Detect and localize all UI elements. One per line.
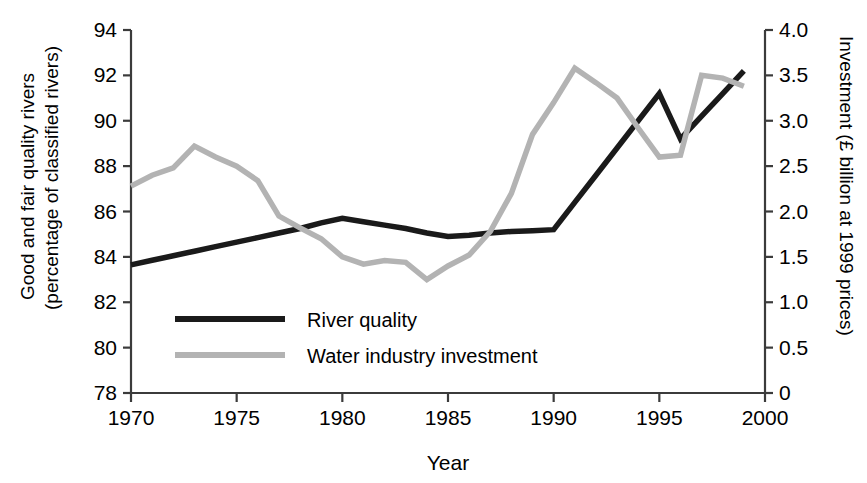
- y-right-tick-label: 2.0: [779, 200, 808, 223]
- series-line-river-quality: [131, 71, 744, 265]
- y-right-tick-label: 1.0: [779, 290, 808, 313]
- y-left-tick-label: 78: [94, 381, 117, 404]
- y-right-tick-label: 3.0: [779, 109, 808, 132]
- y-right-tick-label: 0.5: [779, 336, 808, 359]
- y-left-tick-label: 94: [94, 18, 118, 41]
- y-axis-left-title-line1: Good and fair quality rivers: [17, 73, 38, 300]
- chart-legend: River qualityWater industry investment: [175, 309, 538, 367]
- x-axis-ticks: 1970197519801985199019952000: [108, 393, 789, 429]
- x-tick-label: 1985: [425, 406, 472, 429]
- y-left-tick-label: 84: [94, 245, 118, 268]
- y-right-tick-label: 0: [779, 381, 791, 404]
- x-tick-label: 1980: [319, 406, 366, 429]
- y-left-tick-label: 92: [94, 63, 117, 86]
- x-tick-label: 1970: [108, 406, 155, 429]
- y-right-tick-label: 1.5: [779, 245, 808, 268]
- y-left-tick-label: 88: [94, 154, 117, 177]
- series-lines: [131, 68, 744, 279]
- chart-container: 788082848688909294 00.51.01.52.02.53.03.…: [0, 0, 867, 483]
- y-right-tick-label: 4.0: [779, 18, 808, 41]
- x-axis-title: Year: [427, 451, 469, 474]
- legend-label-0: River quality: [307, 309, 417, 331]
- y-right-tick-label: 2.5: [779, 154, 808, 177]
- x-tick-label: 1990: [530, 406, 577, 429]
- y-axis-left-title-line2: (percentage of classified rivers): [41, 46, 62, 310]
- y-axis-right-title: Investment (£ billion at 1999 prices): [836, 36, 857, 336]
- x-tick-label: 2000: [742, 406, 789, 429]
- x-tick-label: 1975: [213, 406, 260, 429]
- y-right-tick-label: 3.5: [779, 63, 808, 86]
- y-left-tick-label: 90: [94, 109, 117, 132]
- y-left-tick-label: 86: [94, 200, 117, 223]
- line-chart: 788082848688909294 00.51.01.52.02.53.03.…: [0, 0, 867, 483]
- y-axis-left-ticks: 788082848688909294: [94, 18, 131, 404]
- legend-label-1: Water industry investment: [307, 345, 538, 367]
- y-axis-right-ticks: 00.51.01.52.02.53.03.54.0: [765, 18, 808, 404]
- y-left-tick-label: 82: [94, 290, 117, 313]
- y-left-tick-label: 80: [94, 336, 117, 359]
- x-tick-label: 1995: [636, 406, 683, 429]
